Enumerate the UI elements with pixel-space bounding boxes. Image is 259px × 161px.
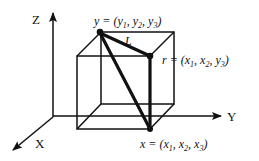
segment-L-label: L bbox=[124, 34, 132, 48]
point-r-dot bbox=[147, 53, 154, 60]
x-axis-label: X bbox=[35, 136, 45, 151]
y-point-label: y = (y1, y2, y3) bbox=[93, 14, 161, 30]
point-x-dot bbox=[147, 126, 153, 132]
x-axis bbox=[13, 117, 53, 150]
cube-edge-top-left bbox=[77, 32, 101, 56]
y-axis-label: Y bbox=[227, 109, 237, 124]
z-axis-label: Z bbox=[32, 12, 40, 27]
r-point-label: r = (x1, x2, y3) bbox=[162, 53, 229, 69]
cube-distance-diagram: Z Y X L y = (y1, y2, y3) r = (x1, x2, y3… bbox=[0, 0, 259, 161]
x-point-label: x = (x1, x2, x3) bbox=[139, 137, 207, 153]
point-y-dot bbox=[97, 29, 104, 36]
